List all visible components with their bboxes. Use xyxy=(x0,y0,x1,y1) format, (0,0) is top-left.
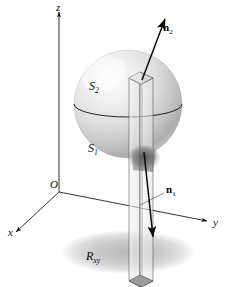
projection-region-subscript: xy xyxy=(93,256,100,265)
normal-n2-label: n2 xyxy=(163,22,173,33)
y-axis-label: y xyxy=(213,217,218,228)
x-axis-label: x xyxy=(8,227,13,238)
lower-hemisphere-subscript: 1 xyxy=(94,148,98,157)
origin-label: O xyxy=(50,179,58,190)
normal-n1-label: n1 xyxy=(166,184,176,195)
upper-hemisphere-label: S2 xyxy=(89,80,99,92)
normal-n1-subscript: 1 xyxy=(172,190,176,198)
upper-hemisphere-subscript: 2 xyxy=(95,86,99,95)
lower-hemisphere-label: S1 xyxy=(88,142,98,154)
projection-region-rxy xyxy=(60,230,196,274)
x-axis xyxy=(16,192,59,232)
z-axis-label: z xyxy=(56,2,60,13)
normal-n2-subscript: 2 xyxy=(169,28,173,36)
sphere-normals-diagram: z y x O S2 S1 n2 n1 Rxy xyxy=(0,0,230,287)
diagram-canvas xyxy=(0,0,230,287)
projection-region-label: Rxy xyxy=(86,250,100,262)
